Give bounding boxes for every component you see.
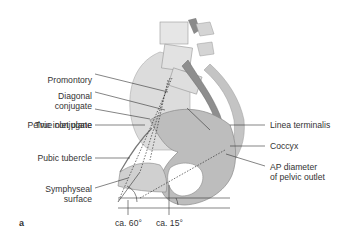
label-promontory: Promontory bbox=[48, 75, 92, 85]
label-ap-diameter-2: of pelvic outlet bbox=[270, 172, 325, 182]
pelvis-illustration bbox=[0, 0, 354, 236]
label-angle-60: ca. 60° bbox=[115, 218, 142, 228]
label-diagonal-conjugate-1: Diagonal bbox=[58, 91, 92, 101]
label-coccyx: Coccyx bbox=[270, 141, 298, 151]
label-symphyseal-surface-1: Symphyseal bbox=[45, 184, 92, 194]
label-linea-terminalis: Linea terminalis bbox=[270, 120, 330, 130]
label-symphyseal-surface-2: surface bbox=[64, 194, 92, 204]
label-angle-15: ca. 15° bbox=[156, 218, 183, 228]
panel-letter: a bbox=[19, 218, 24, 228]
label-diagonal-conjugate-2: conjugate bbox=[55, 101, 92, 111]
label-pubic-tubercle: Pubic tubercle bbox=[38, 153, 92, 163]
label-ap-diameter-1: AP diameter bbox=[270, 162, 317, 172]
label-pelvic-inlet-plane: Pelvic inlet plane bbox=[28, 120, 93, 130]
